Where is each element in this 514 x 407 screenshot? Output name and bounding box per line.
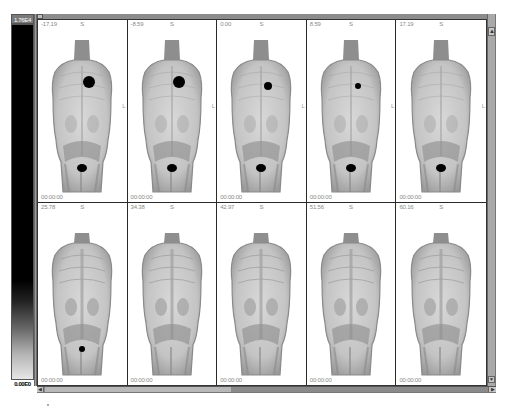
body-slice [226,219,296,379]
kidney-left [65,115,77,133]
slice-frame[interactable]: 60.16 S 00:00:00 [396,203,486,386]
orientation-top-label: S [439,204,443,210]
heart-uptake [83,76,95,88]
scroll-right-icon[interactable]: ▶ [488,387,496,392]
frame-timestamp: 00:00:00 [220,377,242,383]
orientation-top-label: S [349,204,353,210]
slice-frame[interactable]: 0.00 S L 00:00:00 [217,20,307,203]
neck [74,40,90,60]
neck [433,40,449,60]
horizontal-scroll-thumb[interactable] [45,387,231,392]
slice-frame[interactable]: 42.97 S 00:00:00 [217,203,307,386]
kidney-left [424,115,436,133]
orientation-side-label: L [482,103,485,109]
kidney-right [446,115,458,133]
body-slice [47,219,117,379]
frame-time-label: 51.56 [310,204,324,210]
frame-timestamp: 00:00:00 [131,194,153,200]
kidney-left [244,298,256,316]
scroll-left-icon[interactable]: ◀ [37,387,44,392]
body-slice [137,219,207,379]
body-slice [406,36,476,196]
orientation-top-label: S [439,21,443,27]
kidney-left [334,298,346,316]
kidney-right [446,298,458,316]
orientation-top-label: S [80,204,84,210]
body-slice [47,36,117,196]
orientation-top-label: S [349,21,353,27]
orientation-side-label: L [301,103,304,109]
slice-frame[interactable]: 17.19 S L 00:00:00 [396,20,486,203]
neck [253,233,269,243]
body-slice [137,36,207,196]
kidney-left [334,115,346,133]
slice-frame[interactable]: 34.38 S 00:00:00 [128,203,218,386]
kidney-left [424,298,436,316]
kidney-right [177,298,189,316]
slice-frame[interactable]: -17.19 S L 00:00:00 [38,20,128,203]
frame-time-label: 25.78 [41,204,55,210]
orientation-top-label: S [170,204,174,210]
kidney-left [244,115,256,133]
kidney-right [356,115,368,133]
orientation-top-label: S [80,21,84,27]
body-slice-image [316,36,386,196]
neck [164,233,180,243]
orientation-side-label: L [122,103,125,109]
neck [343,233,359,243]
bladder-uptake [77,164,87,172]
frame-time-label: 60.16 [399,204,413,210]
frame-timestamp: 00:00:00 [131,377,153,383]
body-slice-image [137,36,207,196]
bladder-uptake [346,164,356,172]
body-slice [316,36,386,196]
slice-frame[interactable]: 51.56 S 00:00:00 [307,203,397,386]
frame-time-label: 17.19 [399,21,413,27]
body-slice [226,36,296,196]
frame-timestamp: 00:00:00 [310,194,332,200]
frame-timestamp: 00:00:00 [41,194,63,200]
frame-timestamp: 00:00:00 [399,194,421,200]
vertical-scrollbar[interactable]: ▲ ▼ [487,14,496,386]
slice-frame[interactable]: -8.59 S L 00:00:00 [128,20,218,203]
kidney-right [87,115,99,133]
scroll-up-icon[interactable]: ▲ [488,27,495,36]
kidney-left [155,115,167,133]
colorbar [11,24,34,380]
kidney-right [356,298,368,316]
scroll-down-icon[interactable]: ▼ [488,376,495,383]
kidney-left [65,298,77,316]
bladder-uptake [167,164,177,172]
coronal-slice-grid: -17.19 S L 00:00:00 -8.59 S L [37,19,487,386]
neck [164,40,180,60]
body-slice-image [226,219,296,379]
colorbar-max-label: 1.76E4 [11,14,34,24]
bladder-uptake [256,164,266,172]
kidney-right [266,115,278,133]
body-slice-image [226,36,296,196]
stray-mark [47,404,49,406]
orientation-side-label: L [391,103,394,109]
body-slice [406,219,476,379]
body-slice-image [137,219,207,379]
slice-frame[interactable]: 25.78 S 00:00:00 [38,203,128,386]
body-slice-image [47,36,117,196]
frame-timestamp: 00:00:00 [41,377,63,383]
bladder-uptake [436,164,446,172]
colorbar-min-label: 0.00E0 [11,381,34,388]
kidney-left [155,298,167,316]
frame-time-label: -17.19 [41,21,57,27]
body-slice-image [316,219,386,379]
frame-time-label: 42.97 [220,204,234,210]
orientation-top-label: S [170,21,174,27]
frame-timestamp: 00:00:00 [310,377,332,383]
kidney-right [266,298,278,316]
frame-time-label: 0.00 [220,21,231,27]
horizontal-scrollbar[interactable]: ◀ ▶ [37,386,496,393]
frame-time-label: 34.38 [131,204,145,210]
neck [253,40,269,60]
neck [343,40,359,60]
slice-frame[interactable]: 8.59 S L 00:00:00 [307,20,397,203]
frame-time-label: 8.59 [310,21,321,27]
kidney-right [177,115,189,133]
